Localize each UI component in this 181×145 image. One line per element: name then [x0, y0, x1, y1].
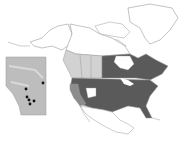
greenland — [128, 4, 178, 44]
record-dot — [42, 82, 45, 85]
north-america-map — [0, 0, 181, 145]
alaska — [30, 24, 72, 50]
alberta-inset — [5, 56, 47, 116]
record-dot — [26, 96, 29, 99]
record-dot — [29, 103, 32, 106]
record-dot — [28, 99, 31, 102]
unshaded-great-basin — [86, 88, 96, 98]
inset-canvas — [5, 56, 47, 116]
record-dot — [33, 100, 36, 103]
caribbean — [152, 118, 160, 120]
eastern-canada-range — [102, 54, 168, 80]
aleutians — [8, 42, 30, 46]
record-dot — [25, 88, 28, 91]
